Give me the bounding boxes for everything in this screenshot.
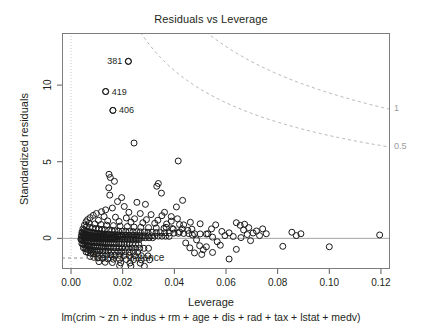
- cooks-distance-legend: Cook's distance: [62, 252, 164, 263]
- plot-frame: [62, 33, 390, 269]
- y-tick-label: 10: [42, 80, 53, 91]
- x-tick-label: 0.04: [165, 277, 184, 288]
- y-axis-title: Standardized residuals: [18, 93, 30, 205]
- y-tick-label: 0: [42, 236, 53, 242]
- y-tick-label: 5: [42, 159, 53, 165]
- x-axis-title: Leverage: [0, 296, 422, 308]
- x-tick-label: 0.10: [320, 277, 339, 288]
- x-tick-label: 0.12: [371, 277, 390, 288]
- cooks-contour-label: 0.5: [394, 141, 407, 151]
- cooks-contour-label: 1: [394, 103, 399, 113]
- model-formula-caption: lm(crim ~ zn + indus + rm + age + dis + …: [0, 311, 422, 323]
- residuals-vs-leverage-plot: Residuals vs Leverage 381419406 Standard…: [0, 0, 422, 330]
- x-tick-label: 0.08: [268, 277, 287, 288]
- x-tick-label: 0.06: [216, 277, 235, 288]
- x-tick-label: 0.02: [113, 277, 132, 288]
- dashed-line-icon: [62, 254, 88, 262]
- legend-label: Cook's distance: [94, 252, 164, 263]
- x-tick-label: 0.00: [61, 277, 80, 288]
